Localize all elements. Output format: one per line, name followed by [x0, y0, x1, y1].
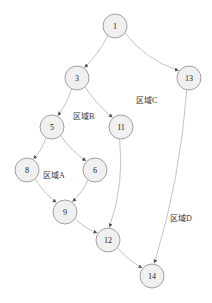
- node-5: 5: [40, 115, 64, 139]
- node-label: 6: [93, 166, 97, 175]
- node-9: 9: [53, 200, 77, 224]
- node-14: 14: [140, 264, 164, 288]
- node-11: 11: [109, 115, 133, 139]
- node-label: 9: [63, 208, 67, 217]
- node-label: 12: [104, 236, 112, 245]
- node-12: 12: [96, 228, 120, 252]
- nodes-layer: 13135118691214: [15, 14, 201, 288]
- node-label: 1: [113, 22, 117, 31]
- node-label: 5: [50, 123, 54, 132]
- edge-13-to-14: [154, 90, 186, 263]
- node-1: 1: [103, 14, 127, 38]
- edge-1-to-3: [85, 36, 108, 68]
- edge-5-to-6: [60, 135, 85, 160]
- control-flow-graph: 13135118691214 区域A区域B区域C区域D: [0, 0, 212, 303]
- edge-3-to-5: [58, 89, 72, 116]
- edge-12-to-14: [117, 248, 142, 268]
- node-label: 13: [185, 74, 193, 83]
- edge-6-to-9: [73, 180, 88, 202]
- node-label: 11: [117, 123, 125, 132]
- edge-1-to-13: [125, 33, 179, 71]
- edge-5-to-8: [34, 137, 46, 158]
- node-label: 14: [148, 272, 156, 281]
- edge-11-to-12: [109, 139, 120, 227]
- edge-9-to-12: [75, 219, 97, 233]
- node-3: 3: [65, 66, 89, 90]
- node-6: 6: [83, 158, 107, 182]
- region-label-b: 区域B: [73, 111, 94, 121]
- node-label: 8: [25, 166, 29, 175]
- region-label-c: 区域C: [136, 95, 157, 105]
- node-label: 3: [75, 74, 79, 83]
- edge-8-to-9: [35, 179, 56, 202]
- node-13: 13: [177, 66, 201, 90]
- region-label-d: 区域D: [170, 213, 192, 223]
- region-label-a: 区域A: [43, 170, 65, 180]
- node-8: 8: [15, 158, 39, 182]
